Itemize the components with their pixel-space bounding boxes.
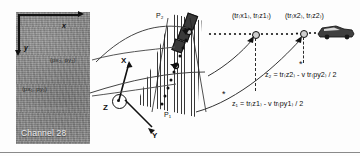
hyperbola-trace xyxy=(24,108,70,109)
panel-x-axis-label: x xyxy=(62,22,66,29)
panel-y-arrowhead-icon xyxy=(15,50,21,56)
drop-line-2 xyxy=(303,37,304,63)
channel-label: Channel 28 xyxy=(21,128,66,138)
beam-label-p1: P₁ xyxy=(164,111,171,118)
trajectory-label-1: (tr₍x1₎, tr₍z1₎) xyxy=(232,12,271,20)
curve-to-node-1 xyxy=(208,40,252,76)
trajectory-label-2: (tr₍x2₎, tr₍z2₎) xyxy=(285,12,324,20)
pixel-marker-label-p1: (px₁, py₁) xyxy=(22,86,47,92)
hyperbola-trace xyxy=(46,116,80,117)
panel-x-axis-line xyxy=(18,14,80,16)
panel-y-axis-label: y xyxy=(24,44,28,51)
axis-label-x: X xyxy=(121,56,126,65)
axis-x-arrowhead-icon xyxy=(127,61,133,68)
equation-z2: z₂ = tr₍z2₎ - v tr₍py2₎ / 2 xyxy=(265,70,337,79)
drop-line-1 xyxy=(255,38,256,91)
radar-image-panel: Channel 28 xyxy=(16,12,90,144)
panel-x-arrowhead-icon xyxy=(78,11,84,17)
bottom-divider xyxy=(0,152,360,153)
asterisk-marker-1: * xyxy=(222,90,226,99)
beam-fan xyxy=(137,11,218,118)
hyperbola-trace xyxy=(30,38,74,39)
hyperbola-trace xyxy=(42,78,64,79)
figure-canvas: Channel 28 (px₂, py₂) (px₁, py₁) x y P₂ … xyxy=(0,0,360,156)
trajectory-node-2 xyxy=(300,30,308,38)
axis-label-z: Z xyxy=(103,103,108,112)
asterisk-marker-2: * xyxy=(299,60,303,69)
car-icon xyxy=(318,26,354,39)
equation-z1: z₁ = tr₍z1₎ - v tr₍py1₎ / 2 xyxy=(232,99,303,108)
panel-y-axis-line xyxy=(18,14,20,52)
pixel-marker-label-p2: (px₂, py₂) xyxy=(50,57,76,63)
trajectory-node-1 xyxy=(252,31,260,39)
beam-label-p2: P₂ xyxy=(156,12,163,19)
axis-label-y: Y xyxy=(152,131,157,140)
